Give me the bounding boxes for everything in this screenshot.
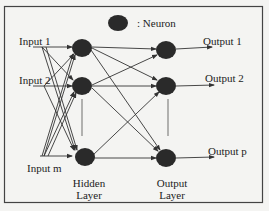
output-layer-label-2: Layer bbox=[159, 189, 185, 201]
output-neuron-p bbox=[156, 149, 176, 167]
hidden-neuron-1 bbox=[72, 39, 92, 57]
output-2-label: Output 2 bbox=[205, 72, 244, 84]
hidden-neuron-2 bbox=[72, 77, 92, 95]
output-layer-label-1: Output bbox=[157, 177, 188, 189]
output-1-label: Output 1 bbox=[203, 35, 242, 47]
legend: : Neuron bbox=[108, 15, 176, 31]
output-neuron-1 bbox=[156, 41, 176, 59]
hidden-neuron-m bbox=[75, 148, 95, 166]
hidden-layer-label-2: Layer bbox=[76, 189, 102, 201]
hidden-layer bbox=[72, 39, 95, 166]
input-2-label: Input 2 bbox=[19, 74, 50, 86]
connections bbox=[33, 47, 214, 158]
input-1-label: Input 1 bbox=[19, 35, 50, 47]
output-p-label: Output p bbox=[208, 145, 247, 157]
neural-network-diagram: : Neuron bbox=[0, 0, 269, 211]
input-m-label: Input m bbox=[27, 162, 62, 174]
legend-neuron-icon bbox=[108, 15, 128, 31]
output-neuron-2 bbox=[156, 77, 176, 95]
hidden-layer-label-1: Hidden bbox=[73, 177, 106, 189]
legend-label: : Neuron bbox=[137, 17, 176, 29]
